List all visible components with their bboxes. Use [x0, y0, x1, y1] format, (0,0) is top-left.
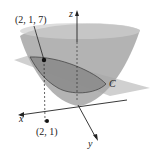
y-axis [78, 105, 96, 138]
y-axis-label: y [88, 138, 92, 149]
paraboloid-rim [20, 23, 140, 39]
z-arrow-icon [75, 10, 79, 16]
point-3d-marker [42, 58, 46, 62]
point-2d-marker [45, 119, 49, 123]
point-2d-label: (2, 1) [36, 126, 58, 137]
z-axis-label: z [69, 8, 73, 19]
x-axis-label: x [19, 113, 23, 124]
y-arrow-icon [93, 134, 98, 141]
point-3d-label: (2, 1, 7) [15, 14, 47, 25]
curve-label: C [109, 78, 116, 89]
